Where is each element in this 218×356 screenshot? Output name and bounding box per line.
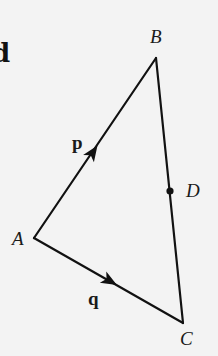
label-point-b: B <box>150 27 162 46</box>
label-vector-p: p <box>72 133 83 152</box>
label-point-a: A <box>12 229 24 248</box>
point-d-dot-icon <box>166 187 173 194</box>
triangle-drawing <box>0 0 218 356</box>
label-vector-q: q <box>88 289 99 308</box>
arrowhead-q-icon <box>100 271 120 290</box>
triangle-figure: d A B C D p q <box>0 0 218 356</box>
label-point-c: C <box>180 329 193 348</box>
label-point-d: D <box>186 181 200 200</box>
